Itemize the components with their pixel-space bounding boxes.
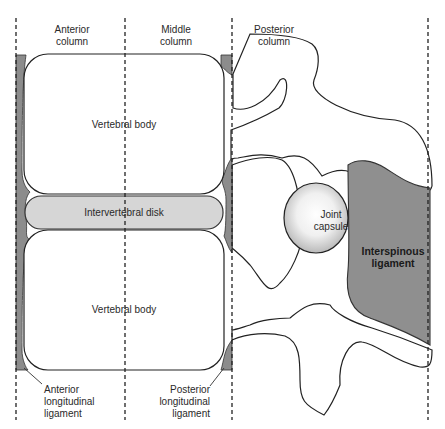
anterior-ligament-leader [24, 368, 42, 384]
interspinous-ligament-label-2: ligament [371, 257, 415, 269]
middle-column-label: Middle [161, 24, 191, 35]
joint-capsule-label: Joint [320, 209, 341, 220]
posterior-ligament-label: Posterior [170, 384, 211, 395]
anterior-ligament-label: Anterior [44, 384, 80, 395]
posterior-ligament-label-2: longitudinal [159, 396, 210, 407]
spine-three-column-diagram: Anterior column Middle column Posterior … [0, 0, 445, 429]
posterior-column-label-2: column [258, 36, 290, 47]
joint-capsule-label-2: capsule [314, 221, 349, 232]
anterior-ligament-label-3: ligament [44, 408, 82, 419]
lower-vertebral-body [24, 230, 224, 370]
upper-vertebral-body-label: Vertebral body [92, 119, 157, 130]
anterior-ligament-label-2: longitudinal [44, 396, 95, 407]
posterior-ligament-leader [210, 368, 224, 386]
interspinous-ligament-label: Interspinous [361, 245, 424, 257]
intervertebral-disk-label: Intervertebral disk [84, 207, 164, 218]
middle-column-label-2: column [160, 36, 192, 47]
lower-vertebral-body-label: Vertebral body [92, 304, 157, 315]
anterior-column-label: Anterior [54, 24, 90, 35]
anterior-column-label-2: column [56, 36, 88, 47]
posterior-ligament-label-3: ligament [172, 408, 210, 419]
posterior-column-label: Posterior [254, 24, 295, 35]
